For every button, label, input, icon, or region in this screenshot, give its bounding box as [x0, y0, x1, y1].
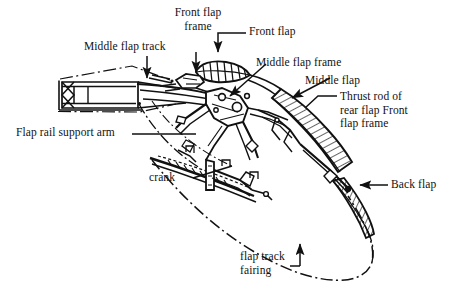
central-flap-mechanism [176, 88, 288, 160]
leader-front-flap [218, 33, 246, 52]
label-middle-flap: Middle flap [305, 74, 360, 88]
crank-assembly [178, 140, 272, 200]
label-front-flap-frame: Front flap frame [148, 6, 248, 33]
label-flap-rail-support-arm: Flap rail support arm [16, 126, 115, 140]
label-front-flap: Front flap [249, 25, 296, 39]
label-crank: crank [149, 171, 175, 185]
label-flap-track-fairing: flap track fairing [240, 250, 285, 277]
support-arm-construction-line [58, 66, 176, 112]
back-flap [333, 178, 374, 238]
figure-canvas: Front flap frame Middle flap track Front… [0, 0, 454, 298]
label-thrust-rod: Thrust rod of rear flap Front flap frame [340, 90, 408, 131]
flap-mechanism-drawing [0, 0, 454, 298]
label-back-flap: Back flap [391, 178, 436, 192]
label-middle-flap-track: Middle flap track [84, 40, 166, 54]
leader-thrust-rod [305, 96, 337, 108]
label-middle-flap-frame: Middle flap frame [256, 56, 341, 70]
